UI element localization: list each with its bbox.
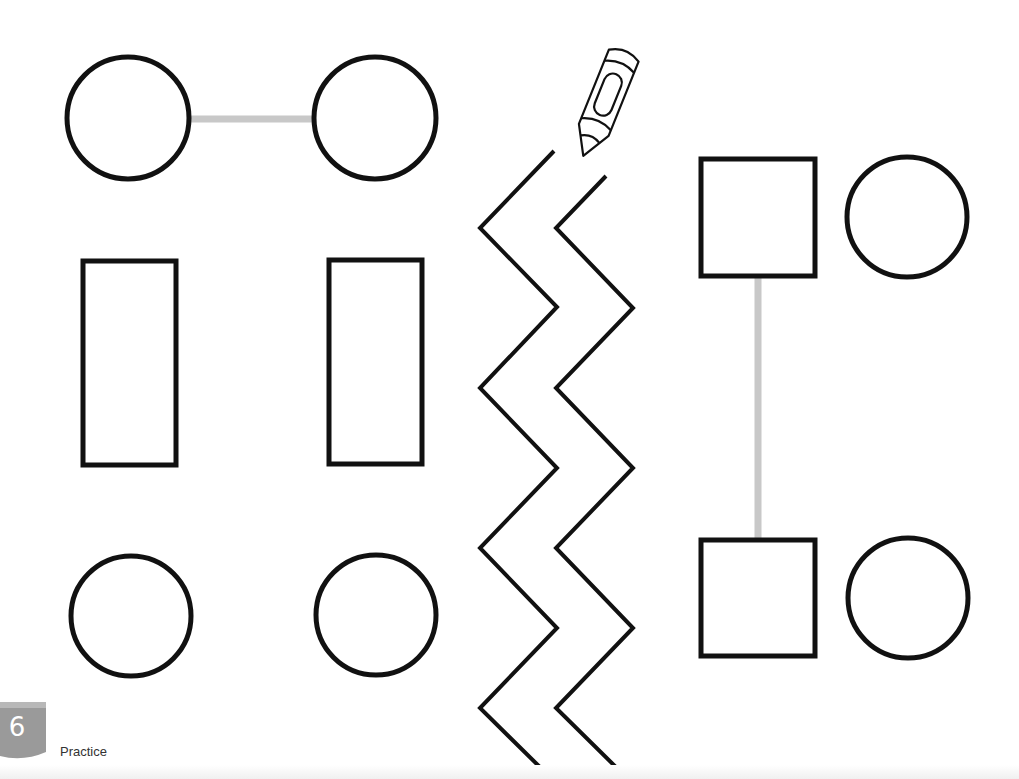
- top-right-circle: [314, 57, 436, 179]
- crayon-icon: [568, 45, 640, 162]
- page-number: 6: [6, 712, 28, 742]
- zigzag-left-line: [480, 151, 557, 779]
- bottom-right-circle: [316, 555, 436, 675]
- page-bottom-edge: [0, 765, 1019, 779]
- lower-circle: [848, 538, 968, 658]
- lower-square: [701, 540, 815, 656]
- left-rectangle: [83, 261, 176, 465]
- right-rectangle: [329, 260, 422, 464]
- section-label: Practice: [60, 744, 107, 759]
- upper-circle: [847, 157, 967, 277]
- bottom-left-circle: [71, 556, 191, 676]
- page-badge-highlight: [0, 702, 46, 708]
- upper-square: [701, 159, 815, 276]
- top-left-circle: [67, 57, 189, 179]
- worksheet-canvas: [0, 0, 1019, 779]
- zigzag-right-line: [556, 176, 633, 779]
